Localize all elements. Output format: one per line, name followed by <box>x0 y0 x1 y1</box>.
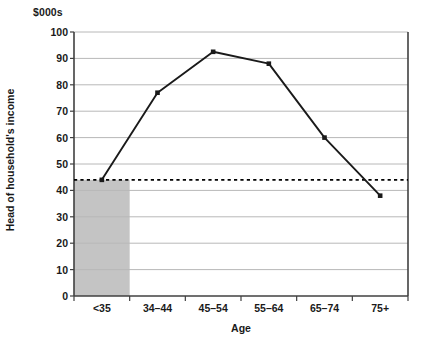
x-axis-title: Age <box>74 322 408 334</box>
x-axis-tick-label: 55–64 <box>254 302 283 314</box>
income-by-age-chart: $000s Head of household's income 0102030… <box>0 0 428 346</box>
x-axis-tick-label: 65–74 <box>310 302 339 314</box>
x-axis-tick-label: <35 <box>93 302 111 314</box>
x-axis-tick-label: 45–54 <box>199 302 228 314</box>
x-axis-tick-label: 34–44 <box>143 302 172 314</box>
x-axis-tick-label: 75+ <box>371 302 389 314</box>
x-axis-tick-labels: <3534–4445–5455–6465–7475+ <box>0 0 428 346</box>
